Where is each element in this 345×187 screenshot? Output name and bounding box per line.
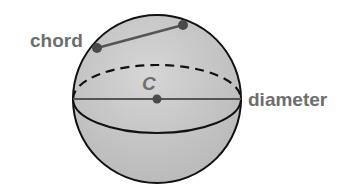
chord-endpoint-left: [92, 43, 102, 53]
center-label: C: [142, 73, 156, 94]
chord-endpoint-right: [178, 20, 188, 30]
sphere-diagram: chord C diameter: [0, 0, 345, 187]
center-point: [153, 95, 162, 104]
diameter-label: diameter: [248, 89, 328, 110]
chord-label: chord: [30, 30, 83, 51]
